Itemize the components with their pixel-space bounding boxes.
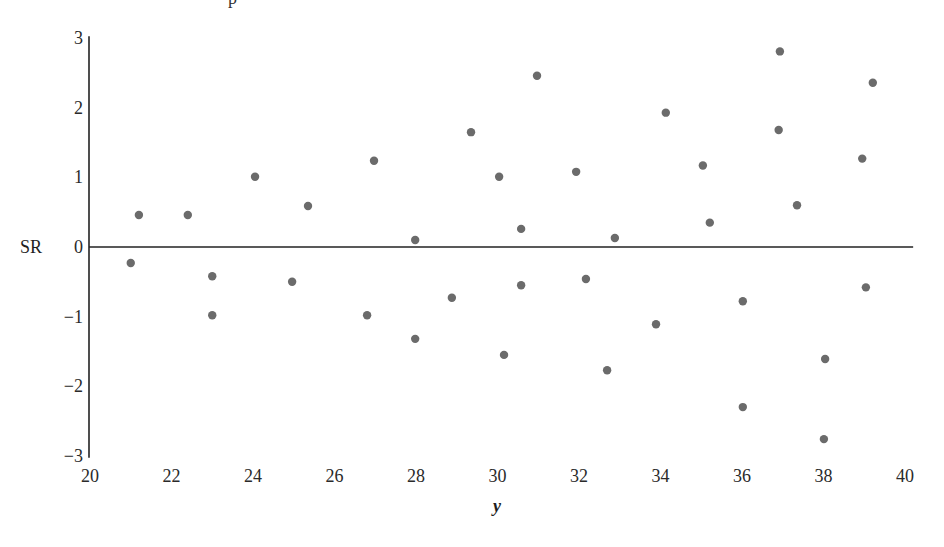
x-tick-label: 26: [326, 466, 344, 486]
x-tick-label: 30: [489, 466, 507, 486]
data-point: [869, 79, 877, 87]
data-point: [611, 234, 619, 242]
data-point: [793, 201, 801, 209]
x-tick-label: 22: [163, 466, 181, 486]
data-point: [208, 311, 216, 319]
data-point: [699, 161, 707, 169]
y-tick-label: 2: [74, 98, 83, 118]
data-point: [739, 297, 747, 305]
data-point: [304, 202, 312, 210]
data-point: [776, 47, 784, 55]
y-tick-labels: 3210−1−2−3: [64, 28, 83, 466]
data-point: [208, 272, 216, 280]
data-point: [862, 283, 870, 291]
data-point: [821, 355, 829, 363]
data-point: [582, 275, 590, 283]
data-point: [517, 225, 525, 233]
y-tick-label: 3: [74, 28, 83, 48]
y-tick-label: −2: [64, 376, 83, 396]
data-point: [135, 211, 143, 219]
x-tick-label: 28: [407, 466, 425, 486]
data-point: [517, 281, 525, 289]
x-tick-labels: 2022242628303234363840: [81, 466, 914, 486]
x-tick-label: 32: [570, 466, 588, 486]
data-point: [858, 154, 866, 162]
y-tick-label: −3: [64, 446, 83, 466]
data-point: [127, 259, 135, 267]
data-point: [820, 435, 828, 443]
data-point: [652, 320, 660, 328]
data-point: [774, 126, 782, 134]
data-point: [572, 168, 580, 176]
data-point: [370, 156, 378, 164]
x-tick-label: 24: [244, 466, 262, 486]
data-point: [662, 108, 670, 116]
data-point: [411, 335, 419, 343]
x-tick-label: 38: [815, 466, 833, 486]
data-point: [467, 128, 475, 136]
data-point: [739, 403, 747, 411]
data-point: [706, 218, 714, 226]
data-point: [363, 311, 371, 319]
data-point: [500, 351, 508, 359]
y-tick-label: 1: [74, 167, 83, 187]
data-point: [411, 236, 419, 244]
x-axis-title: y: [491, 496, 502, 516]
y-tick-label: 0: [74, 237, 83, 257]
data-point: [448, 294, 456, 302]
residual-scatter-plot: 3210−1−2−3 2022242628303234363840 SR y: [0, 0, 944, 547]
data-point: [184, 211, 192, 219]
data-point: [495, 173, 503, 181]
x-tick-label: 20: [81, 466, 99, 486]
data-points: [127, 47, 877, 443]
x-tick-label: 36: [733, 466, 751, 486]
data-point: [251, 173, 259, 181]
x-tick-label: 34: [652, 466, 670, 486]
data-point: [603, 366, 611, 374]
data-point: [533, 72, 541, 80]
x-tick-label: 40: [896, 466, 914, 486]
data-point: [288, 278, 296, 286]
y-tick-label: −1: [64, 307, 83, 327]
y-axis-title: SR: [20, 237, 42, 257]
